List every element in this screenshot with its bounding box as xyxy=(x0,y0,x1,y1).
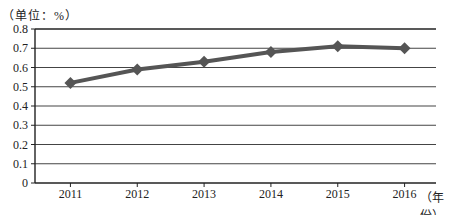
y-tick-label: 0.1 xyxy=(13,157,28,171)
y-axis-ticks: 00.10.20.30.40.50.60.70.8 xyxy=(13,22,35,190)
x-tick-label: 2014 xyxy=(259,187,283,201)
y-tick-label: 0.2 xyxy=(13,138,28,152)
x-tick-label: 2016 xyxy=(393,187,417,201)
y-tick-label: 0.5 xyxy=(13,80,28,94)
diamond-marker xyxy=(399,42,411,54)
y-tick-label: 0.7 xyxy=(13,41,28,55)
x-tick-label: 2012 xyxy=(125,187,149,201)
y-tick-label: 0.3 xyxy=(13,118,28,132)
y-tick-label: 0 xyxy=(22,176,28,190)
y-tick-label: 0.8 xyxy=(13,22,28,36)
diamond-marker xyxy=(131,63,143,75)
diamond-marker xyxy=(332,40,344,52)
series-line xyxy=(70,46,404,83)
x-axis-ticks: 201120122013201420152016 xyxy=(59,183,417,201)
y-tick-label: 0.6 xyxy=(13,61,28,75)
x-tick-label: 2011 xyxy=(59,187,83,201)
y-tick-label: 0.4 xyxy=(13,99,28,113)
x-tick-label: 2013 xyxy=(192,187,216,201)
line-chart: 00.10.20.30.40.50.60.70.8 20112012201320… xyxy=(0,0,458,215)
data-series xyxy=(64,40,410,89)
diamond-marker xyxy=(198,56,210,68)
x-tick-label: 2015 xyxy=(326,187,350,201)
